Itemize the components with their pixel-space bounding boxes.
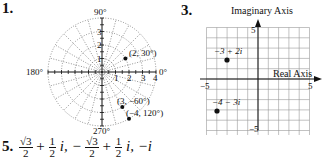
point-neg4-3i	[214, 108, 219, 113]
real-axis-label: Real Axis	[273, 68, 312, 79]
point-label-neg4-3i: −4 − 3i	[212, 97, 241, 107]
fraction-sqrt3-over-2-b: √32	[85, 136, 99, 159]
x-tick-neg5: −5	[200, 81, 210, 91]
fraction-sqrt3-over-2: √32	[19, 136, 33, 159]
real-axis-arrow-icon	[314, 76, 322, 82]
y-tick-neg5: −5	[249, 124, 259, 134]
fraction-half: 12	[49, 136, 57, 159]
point-neg3-2i	[224, 57, 229, 62]
fraction-half-b: 12	[115, 136, 123, 159]
point-label-neg3-2i: −3 + 2i	[214, 46, 243, 56]
problem-number-5: 5.	[2, 138, 13, 154]
y-tick-5: 5	[251, 25, 256, 35]
imaginary-axis-label: Imaginary Axis	[231, 5, 293, 16]
answer-5: 5. √32 + 12 i, − √32 + 12 i, −i	[2, 136, 152, 159]
x-tick-5: 5	[308, 81, 313, 91]
imaginary-axis-arrow-icon	[255, 19, 261, 27]
